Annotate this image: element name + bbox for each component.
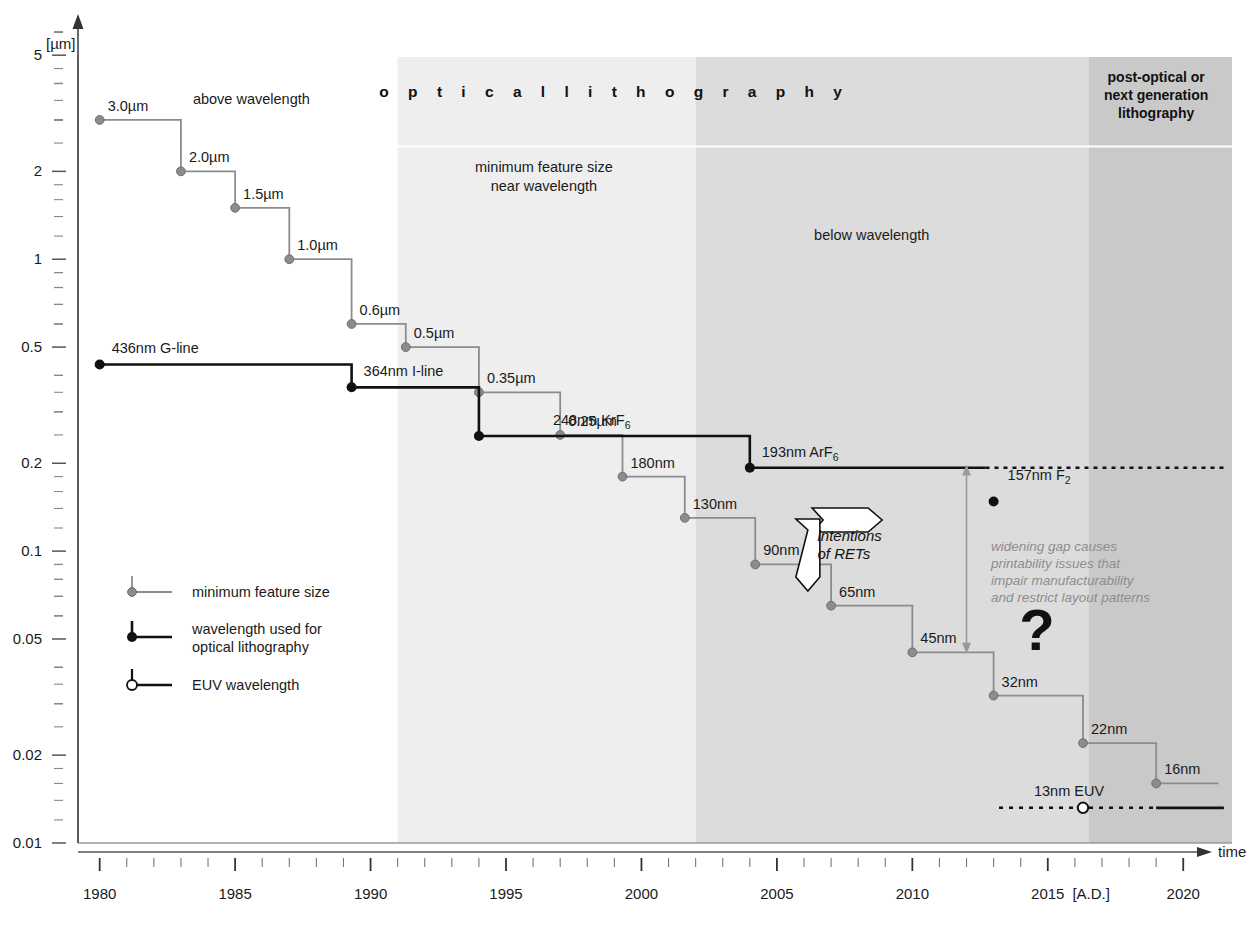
x-era-label: [A.D.] — [1072, 885, 1110, 902]
y-tick-label: 0.2 — [21, 454, 42, 471]
legend-label-minimum-feature-size: minimum feature size — [192, 584, 330, 600]
x-tick-label: 1980 — [83, 885, 116, 902]
near-wavelength-label-line1: minimum feature size — [475, 159, 613, 175]
y-tick-label: 2 — [34, 162, 42, 179]
feature-node-marker[interactable] — [95, 116, 104, 125]
feature-node-marker[interactable] — [827, 601, 836, 610]
widening-gap-line: impair manufacturability — [991, 573, 1135, 588]
y-axis-unit-label: [µm] — [46, 35, 75, 52]
x-tick-label: 1990 — [354, 885, 387, 902]
feature-node-marker[interactable] — [1079, 739, 1088, 748]
feature-node-label: 2.0µm — [189, 149, 230, 165]
feature-node-marker[interactable] — [1152, 779, 1161, 788]
post-optical-label-line3: lithography — [1118, 105, 1194, 121]
below-wavelength-label: below wavelength — [814, 227, 929, 243]
wavelength-node-marker[interactable] — [474, 431, 484, 441]
widening-gap-line: printability issues that — [990, 556, 1121, 571]
y-tick-label: 0.02 — [13, 746, 42, 763]
x-tick-label: 2020 — [1167, 885, 1200, 902]
intentions-of-rets-line2: of RETs — [818, 545, 871, 562]
optical-lithography-header: o p t i c a l l i t h o g r a p h y — [379, 83, 849, 100]
post-optical-label-line1: post-optical or — [1108, 69, 1206, 85]
feature-node-marker[interactable] — [989, 691, 998, 700]
band-below-wavelength — [696, 57, 1089, 843]
wavelength-node-marker[interactable] — [745, 463, 755, 473]
legend-marker-dot-1 — [128, 588, 137, 597]
legend-marker-dot-2 — [127, 632, 137, 642]
widening-gap-line: and restrict layout patterns — [991, 590, 1150, 605]
feature-node-label: 0.5µm — [414, 325, 455, 341]
near-wavelength-label-line2: near wavelength — [491, 178, 597, 194]
feature-node-marker[interactable] — [231, 203, 240, 212]
feature-node-label: 16nm — [1164, 761, 1200, 777]
feature-node-label: 3.0µm — [108, 98, 149, 114]
y-tick-label: 0.01 — [13, 834, 42, 851]
wavelength-node-marker[interactable] — [95, 359, 105, 369]
x-tick-label: 1995 — [489, 885, 522, 902]
feature-node-marker[interactable] — [618, 472, 627, 481]
feature-node-marker[interactable] — [347, 320, 356, 329]
feature-node-marker[interactable] — [751, 560, 760, 569]
feature-node-label: 130nm — [693, 496, 737, 512]
feature-node-label: 0.6µm — [360, 302, 401, 318]
widening-gap-line: widening gap causes — [991, 539, 1117, 554]
chart-canvas: [µm]5210.50.20.10.050.020.01time19801985… — [0, 0, 1260, 937]
question-mark: ? — [1019, 597, 1054, 662]
feature-node-marker[interactable] — [680, 513, 689, 522]
legend-label-euv: EUV wavelength — [192, 677, 299, 693]
x-axis-arrow-label: time — [1218, 843, 1246, 860]
feature-node-label: 45nm — [920, 630, 956, 646]
wavelength-node-marker[interactable] — [347, 382, 357, 392]
feature-node-label: 22nm — [1091, 721, 1127, 737]
x-tick-label: 2010 — [896, 885, 929, 902]
x-axis-arrow — [1197, 847, 1212, 857]
feature-node-label: 1.5µm — [243, 186, 284, 202]
feature-node-label: 0.35µm — [487, 370, 536, 386]
intentions-of-rets-line1: intentions — [818, 527, 883, 544]
feature-node-marker[interactable] — [285, 255, 294, 264]
y-tick-label: 0.05 — [13, 630, 42, 647]
post-optical-label-line2: next generation — [1104, 87, 1208, 103]
wavelength-label-g-line: 436nm G-line — [112, 340, 199, 356]
feature-node-marker[interactable] — [401, 343, 410, 352]
feature-node-label: 90nm — [763, 542, 799, 558]
wavelength-label-i-line: 364nm I-line — [364, 363, 444, 379]
feature-node-label: 180nm — [630, 455, 674, 471]
y-tick-label: 0.5 — [21, 338, 42, 355]
euv-label: 13nm EUV — [1034, 783, 1104, 799]
feature-node-label: 32nm — [1002, 674, 1038, 690]
x-tick-label: 2005 — [760, 885, 793, 902]
legend-marker-dot-3 — [127, 680, 137, 690]
y-axis-arrow — [73, 14, 84, 29]
feature-node-label: 1.0µm — [297, 237, 338, 253]
above-wavelength-label: above wavelength — [193, 91, 310, 107]
euv-node-marker[interactable] — [1078, 803, 1088, 813]
legend-label-wavelength-line2: optical lithography — [192, 639, 310, 655]
y-tick-label: 0.1 — [21, 542, 42, 559]
feature-node-label: 65nm — [839, 584, 875, 600]
feature-node-marker[interactable] — [177, 167, 186, 176]
legend-label-wavelength-line1: wavelength used for — [191, 621, 322, 637]
x-tick-label: 2015 — [1031, 885, 1064, 902]
f2-point-marker[interactable] — [989, 496, 999, 506]
lithography-roadmap-chart: [µm]5210.50.20.10.050.020.01time19801985… — [0, 0, 1260, 937]
x-tick-label: 1985 — [218, 885, 251, 902]
y-tick-label: 5 — [34, 46, 42, 63]
feature-node-marker[interactable] — [908, 648, 917, 657]
x-tick-label: 2000 — [625, 885, 658, 902]
y-tick-label: 1 — [34, 250, 42, 267]
